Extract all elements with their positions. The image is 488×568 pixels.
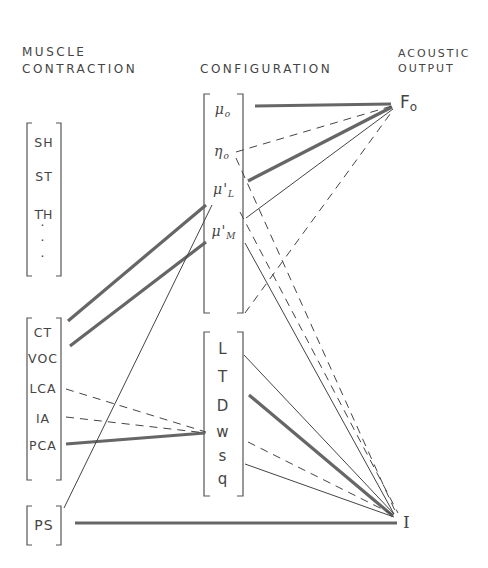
config-s: s <box>219 447 228 465</box>
muscle-pca: PCA <box>29 438 57 453</box>
muscle-voc: VOC <box>28 351 58 366</box>
ellipsis-dot: · <box>41 233 46 248</box>
muscle-st: ST <box>35 169 53 184</box>
muscle-ia: IA <box>36 411 50 426</box>
config-d: D <box>217 397 230 415</box>
muscle-lca: LCA <box>29 381 56 396</box>
ellipsis-dot: · <box>41 203 46 218</box>
muscle-sh: SH <box>34 135 53 150</box>
config-mu-l: μ'L <box>213 181 235 199</box>
bracket-left-ps <box>27 506 32 545</box>
bracket-right-muscle-2 <box>56 318 61 480</box>
config-mu-m: μ'M <box>211 223 236 241</box>
bracket-right-config-1 <box>237 94 243 313</box>
output-f0: Fo <box>400 92 417 114</box>
output-intensity: I <box>403 512 410 532</box>
muscle-ps: PS <box>34 517 53 533</box>
bracket-left-config-1 <box>204 94 210 313</box>
config-l: L <box>218 340 227 358</box>
bracket-right-config-2 <box>237 332 243 496</box>
bracket-left-config-2 <box>204 332 210 496</box>
config-mu0: μo <box>215 101 232 119</box>
bracket-right-muscle-1 <box>56 123 61 276</box>
ellipsis-dot: · <box>41 218 46 233</box>
connection-diagram <box>0 0 488 568</box>
bracket-left-muscle-1 <box>27 123 32 276</box>
config-w: w <box>216 423 229 441</box>
bracket-right-ps <box>56 506 61 545</box>
config-q: q <box>218 470 229 488</box>
muscle-ct: CT <box>34 325 52 340</box>
config-eta0: ηo <box>214 143 230 161</box>
bracket-left-muscle-2 <box>27 318 32 480</box>
config-t: T <box>218 368 228 386</box>
ellipsis-dot: · <box>41 249 46 264</box>
